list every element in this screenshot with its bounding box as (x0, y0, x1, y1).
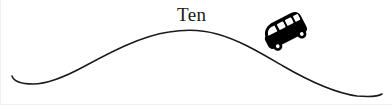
illustration-canvas: Ten (1, 0, 392, 105)
van-icon (259, 10, 310, 55)
hill-illustration: Ten (0, 0, 392, 105)
crest-label: Ten (177, 4, 207, 25)
hill-curve-path (12, 30, 382, 96)
